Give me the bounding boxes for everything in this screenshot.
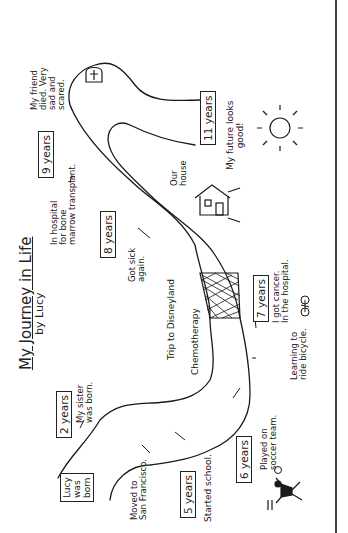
born-line-1: Lucy	[62, 477, 72, 498]
note-disneyland: Trip to Disneyland	[166, 279, 177, 360]
note-ride-bicycle: Learning to ride bicycle.	[290, 328, 308, 380]
note-line: house	[179, 160, 188, 186]
milestone-age-6: 6 years	[236, 436, 252, 483]
chemotherapy-hatch	[200, 273, 240, 318]
byline: by Lucy	[34, 293, 45, 335]
note-moved-sf: Moved to San Francisco.	[130, 459, 148, 520]
note-bone-marrow: In hospital for bone marrow transplant.	[50, 164, 77, 245]
milestone-age-7: 7 years	[253, 275, 269, 322]
note-our-house: Our house	[170, 160, 188, 186]
milestone-born: Lucy was born	[60, 473, 94, 502]
tombstone-icon	[86, 68, 102, 83]
note-sick-again: Got sick again.	[128, 248, 146, 282]
note-friend-died: My friend died. Very sad and scared.	[30, 67, 66, 110]
note-line: was born.	[85, 382, 94, 423]
born-line-3: born	[82, 477, 92, 498]
milestone-age-8: 8 years	[100, 211, 116, 258]
note-line: good!	[235, 101, 245, 170]
note-started-school: Started school.	[203, 454, 214, 522]
note-got-cancer: I got cancer. In the hospital.	[272, 259, 290, 323]
note-line: ride bicycle.	[299, 328, 308, 380]
note-chemotherapy: Chemotherapy	[190, 308, 201, 375]
house-icon	[195, 185, 240, 222]
milestone-age-2: 2 years	[56, 391, 72, 438]
bicycle-icon	[301, 296, 309, 316]
milestone-age-11: 11 years	[200, 91, 216, 145]
page-title: My Journey in Life	[18, 237, 34, 370]
note-future-good: My future looks good!	[225, 101, 245, 170]
drawing-page: My Journey in Life by Lucy Lucy was born…	[0, 0, 348, 533]
note-line: In the hospital.	[281, 259, 290, 323]
note-line: My future looks	[225, 101, 235, 170]
note-line: marrow transplant.	[68, 164, 77, 245]
note-line: again.	[137, 248, 146, 282]
born-line-2: was	[72, 477, 82, 498]
milestone-age-5: 5 years	[180, 471, 196, 518]
sun-icon	[257, 105, 303, 151]
note-line: soccer team.	[269, 415, 278, 470]
note-sister-born: My sister was born.	[76, 382, 94, 423]
note-soccer-team: Played on soccer team.	[260, 415, 278, 470]
note-line: scared.	[57, 67, 66, 110]
soccer-player-icon	[268, 478, 302, 510]
note-line: San Francisco.	[139, 459, 148, 520]
